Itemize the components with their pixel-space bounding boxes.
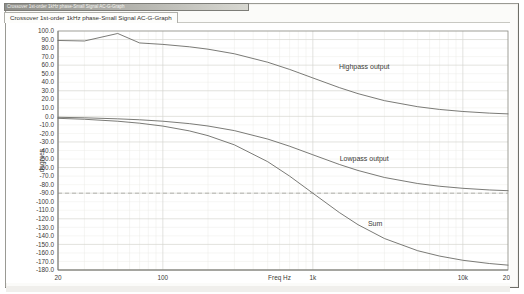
y-tick-label: -140.0	[36, 232, 55, 239]
x-tick-label: 10k	[458, 274, 469, 281]
y-tick-label: 20.0	[42, 95, 55, 102]
x-tick-label: 100	[158, 274, 169, 281]
y-tick-label: -160.0	[36, 249, 55, 256]
y-tick-label: -180.0	[36, 266, 55, 273]
y-tick-label: 70.0	[42, 53, 55, 60]
tab-graph-label: Crossover 1st-order 1kHz phase-Small Sig…	[10, 14, 172, 22]
y-tick-label: -150.0	[36, 241, 55, 248]
annotation-highpass-phase: Highpass output	[339, 63, 390, 71]
window-title: Crossover 1st-order 1kHz phase-Small Sig…	[5, 4, 125, 10]
series-annotations: Highpass outputLowpass outputSum	[339, 63, 390, 226]
y-tick-label: 30.0	[42, 87, 55, 94]
curve-sum-phase	[58, 118, 508, 265]
graph-window: Crossover 1st-order 1kHz phase-Small Sig…	[0, 0, 524, 294]
y-tick-label: 90.0	[42, 36, 55, 43]
y-axis-title: degrees	[38, 139, 45, 183]
y-tick-label: -170.0	[36, 258, 55, 265]
y-tick-label: 0.0	[45, 113, 54, 120]
y-tick-label: -130.0	[36, 224, 55, 231]
x-tick-label: 20	[54, 274, 62, 281]
y-tick-label: -10.0	[39, 121, 54, 128]
y-tick-label: 100.0	[38, 27, 54, 34]
tab-strip: Crossover 1st-order 1kHz phase-Small Sig…	[4, 12, 510, 23]
y-tick-label: 40.0	[42, 78, 55, 85]
phase-plot: 100.090.080.070.060.050.040.030.020.010.…	[6, 23, 510, 283]
plot-panel: 100.090.080.070.060.050.040.030.020.010.…	[6, 23, 510, 283]
y-tick-label: -110.0	[36, 206, 54, 213]
x-axis-tick-labels: 201001k10k20kFreq Hz	[54, 274, 510, 282]
window-titlebar[interactable]: Crossover 1st-order 1kHz phase-Small Sig…	[4, 3, 249, 11]
x-tick-label: 20k	[503, 274, 510, 281]
y-tick-label: -120.0	[36, 215, 55, 222]
x-tick-label: 1k	[309, 274, 317, 281]
status-strip	[6, 286, 510, 292]
annotation-lowpass-phase: Lowpass output	[340, 155, 389, 163]
tab-graph[interactable]: Crossover 1st-order 1kHz phase-Small Sig…	[4, 12, 178, 23]
x-axis-title: Freq Hz	[268, 274, 291, 282]
data-curves	[58, 33, 508, 265]
y-tick-label: -90.0	[39, 189, 54, 196]
y-tick-label: 10.0	[42, 104, 55, 111]
annotation-sum-phase: Sum	[368, 220, 383, 227]
curve-lowpass-phase	[58, 117, 508, 190]
y-tick-label: 80.0	[42, 44, 55, 51]
y-tick-label: -100.0	[36, 198, 55, 205]
y-tick-label: 50.0	[42, 70, 55, 77]
y-tick-label: 60.0	[42, 61, 55, 68]
y-tick-label: -20.0	[39, 130, 54, 137]
